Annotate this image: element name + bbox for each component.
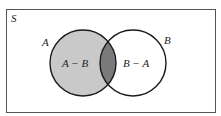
venn-diagram: S A B A − B B − A — [0, 0, 221, 116]
b-minus-a-label: B − A — [123, 57, 149, 69]
a-minus-b-label: A − B — [61, 57, 88, 69]
set-b-label: B — [164, 34, 171, 46]
set-a-label: A — [41, 36, 49, 48]
universe-label: S — [11, 12, 17, 24]
